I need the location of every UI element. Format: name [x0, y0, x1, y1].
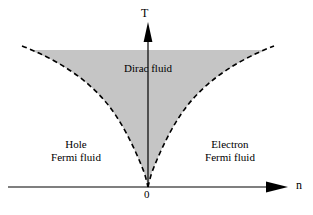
electron-fermi-fluid-label-line-1: Electron [180, 138, 280, 151]
origin-label: 0 [144, 188, 150, 201]
hole-fermi-fluid-region-label: Hole Fermi fluid [30, 138, 122, 164]
dirac-fluid-region-label: Dirac fluid [98, 62, 198, 75]
phase-diagram-figure: T n 0 Dirac fluid Hole Fermi fluid Elect… [0, 0, 313, 215]
electron-fermi-fluid-label-line-2: Fermi fluid [180, 151, 280, 164]
carrier-density-axis-arrowhead [266, 182, 288, 193]
electron-fermi-fluid-region-label: Electron Fermi fluid [180, 138, 280, 164]
hole-fermi-fluid-label-line-1: Hole [30, 138, 122, 151]
carrier-density-axis-label: n [296, 178, 302, 192]
hole-fermi-fluid-label-line-2: Fermi fluid [30, 151, 122, 164]
phase-diagram-plot [0, 0, 313, 215]
dirac-fluid-label-line-1: Dirac fluid [98, 62, 198, 75]
temperature-axis-label: T [141, 6, 148, 20]
temperature-axis-arrowhead [144, 22, 153, 42]
